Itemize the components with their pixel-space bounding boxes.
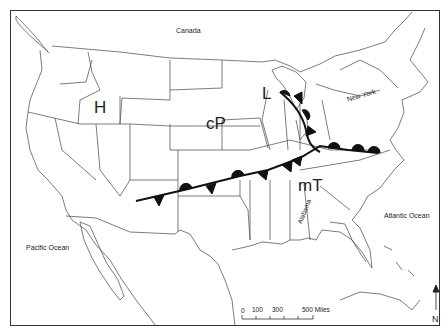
high-pressure-center: H xyxy=(94,98,106,118)
scale-label-100: 100 xyxy=(252,306,263,313)
air-mass-cp: cP xyxy=(206,114,226,134)
air-mass-mt: mT xyxy=(298,176,323,196)
map-canvas xyxy=(0,0,448,332)
baja-california xyxy=(80,222,124,300)
low-pressure-center: L xyxy=(262,84,271,104)
cuba xyxy=(340,292,420,310)
label-canada: Canada xyxy=(176,27,201,34)
stationary-front xyxy=(136,142,380,206)
scale-label-0: 0 xyxy=(241,307,245,314)
us-canada-border xyxy=(52,12,412,72)
scale-bar xyxy=(242,315,313,319)
scale-label-500-miles: 500 Miles xyxy=(302,306,330,313)
north-label: N xyxy=(432,314,439,324)
east-coast xyxy=(360,28,428,210)
label-pacific-ocean: Pacific Ocean xyxy=(26,244,69,251)
label-atlantic-ocean: Atlantic Ocean xyxy=(384,212,430,219)
north-arrow-icon xyxy=(433,285,439,310)
west-coast xyxy=(26,50,156,326)
vancouver-island xyxy=(16,16,49,53)
scale-label-300: 300 xyxy=(272,306,283,313)
us-mexico-border xyxy=(66,216,235,326)
florida xyxy=(330,222,366,262)
